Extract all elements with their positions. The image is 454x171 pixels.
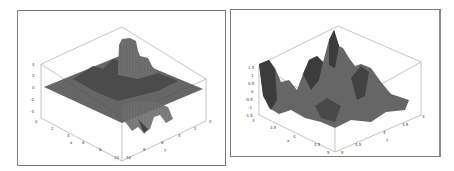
z-tick-2: 0.5: [248, 81, 255, 86]
z-tick-2: 0: [32, 85, 35, 90]
y-tick-4: 2: [194, 126, 197, 131]
surface-plot-right-canvas: 1.5 1 0.5 0 -0.5 -1 -1.5 3 3.5 4 4.5 5 x…: [231, 10, 440, 158]
y-tick-5: 0: [209, 119, 212, 124]
y-tick-2: 6: [161, 140, 164, 145]
y-axis-label: y: [164, 147, 167, 152]
y-tick-0: 5: [341, 150, 344, 155]
z-tick-3: -2: [30, 97, 34, 102]
y-tick-1: 4.5: [355, 142, 362, 147]
x-tick-5: 10: [114, 155, 120, 160]
surface-troughs: [122, 101, 173, 133]
z-tick-4: -4: [30, 109, 34, 114]
x-tick-2: 4: [293, 134, 296, 139]
z-tick-5: -1: [248, 105, 252, 110]
y-tick-0: 10: [126, 155, 132, 160]
x-tick-0: 3: [252, 118, 255, 123]
x-tick-1: 2: [51, 126, 54, 131]
x-tick-3: 4.5: [314, 142, 321, 147]
z-tick-1: 1: [251, 73, 254, 78]
x-tick-4: 8: [99, 147, 102, 152]
z-tick-0: 1.5: [248, 65, 255, 70]
z-axis-ticks: 4 2 0 -2 -4: [30, 62, 35, 114]
z-tick-3: 0: [251, 89, 254, 94]
y-axis-label: y: [386, 137, 389, 142]
x-tick-2: 4: [67, 133, 70, 138]
surface-plot-left: 4 2 0 -2 -4 0 2 4 6 8 10 x 10 8 6 4 2 0 …: [17, 10, 226, 166]
z-tick-0: 4: [32, 62, 35, 67]
x-axis-ticks: 0 2 4 6 8 10 x: [35, 119, 120, 160]
surface-plot-left-canvas: 4 2 0 -2 -4 0 2 4 6 8 10 x 10 8 6 4 2 0 …: [18, 11, 227, 167]
x-axis-label: x: [70, 140, 73, 145]
x-axis-ticks: 3 3.5 4 4.5 5 x: [252, 118, 330, 155]
surface-plot-right: 1.5 1 0.5 0 -0.5 -1 -1.5 3 3.5 4 4.5 5 x…: [230, 9, 441, 157]
x-tick-0: 0: [35, 119, 38, 124]
z-tick-4: -0.5: [245, 97, 253, 102]
x-tick-3: 6: [82, 140, 85, 145]
y-tick-3: 3.5: [402, 122, 409, 127]
x-tick-4: 5: [327, 150, 330, 155]
y-tick-2: 4: [383, 130, 386, 135]
y-tick-4: 3: [422, 114, 425, 119]
x-tick-1: 3.5: [270, 125, 277, 130]
x-axis-label: x: [287, 138, 290, 143]
z-axis-ticks: 1.5 1 0.5 0 -0.5 -1 -1.5: [245, 65, 255, 118]
z-tick-1: 2: [32, 73, 35, 78]
surface-peak: [118, 38, 158, 79]
y-tick-3: 4: [178, 133, 181, 138]
